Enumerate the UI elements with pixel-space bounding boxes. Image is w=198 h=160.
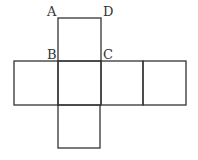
label-a: A xyxy=(46,4,57,19)
square-right-1 xyxy=(101,61,143,105)
square-center xyxy=(58,61,101,105)
square-bottom xyxy=(58,105,100,148)
square-right-2 xyxy=(143,61,186,105)
cube-net-diagram: A D B C xyxy=(0,0,198,160)
squares xyxy=(14,18,186,148)
label-c: C xyxy=(103,47,113,62)
square-left xyxy=(14,61,58,105)
label-d: D xyxy=(103,4,113,19)
label-b: B xyxy=(47,47,57,62)
square-top xyxy=(58,18,101,61)
